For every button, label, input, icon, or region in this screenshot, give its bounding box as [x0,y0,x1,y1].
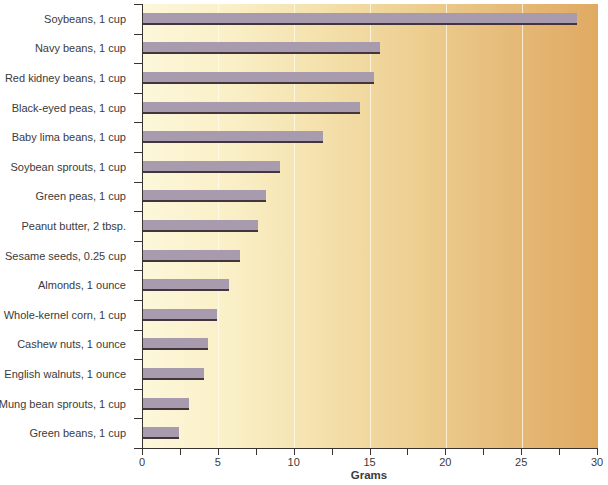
x-tick-label-15: 15 [363,456,375,468]
x-tick-label-20: 20 [439,456,451,468]
x-tick [218,449,219,455]
x-tick [180,449,181,455]
category-label: Soybean sprouts, 1 cup [0,152,134,182]
bar-english-walnuts [143,368,204,380]
y-tick [134,122,142,123]
y-tick [134,359,142,360]
bar-soybeans [143,13,577,25]
category-label: Peanut butter, 2 tbsp. [0,211,134,241]
bar-green-beans [143,427,179,439]
y-tick [134,389,142,390]
y-tick [134,34,142,35]
category-label: Cashew nuts, 1 ounce [0,330,134,360]
y-tick [134,330,142,331]
bar-green-peas [143,190,266,202]
y-tick [134,448,142,449]
plot-area [142,4,598,449]
category-label: Almonds, 1 ounce [0,270,134,300]
category-axis-labels: Soybeans, 1 cupNavy beans, 1 cupRed kidn… [0,4,134,448]
gridline-25 [522,4,523,448]
x-tick [559,449,560,455]
x-tick-label-25: 25 [515,456,527,468]
y-tick [134,4,142,5]
bar-whole-kernel-corn [143,309,217,321]
category-label: Green peas, 1 cup [0,182,134,212]
category-label: Mung bean sprouts, 1 cup [0,389,134,419]
y-tick [134,93,142,94]
bar-black-eyed-peas [143,102,360,114]
x-axis-title: Grams [351,469,387,481]
bar-mung-bean-sprouts [143,398,189,410]
y-tick [134,211,142,212]
bar-peanut-butter [143,220,258,232]
y-tick [134,152,142,153]
category-label: Baby lima beans, 1 cup [0,122,134,152]
x-tick [370,449,371,455]
x-tick [142,449,143,455]
category-label: Sesame seeds, 0.25 cup [0,241,134,271]
x-tick [256,449,257,455]
bar-baby-lima-beans [143,131,323,143]
y-tick [134,270,142,271]
y-tick [134,418,142,419]
x-tick [407,449,408,455]
bar-almonds [143,279,229,291]
bar-soybean-sprouts [143,161,280,173]
category-label: English walnuts, 1 ounce [0,359,134,389]
x-tick-label-30: 30 [591,456,603,468]
bar-sesame-seeds [143,250,240,262]
x-tick-label-5: 5 [215,456,221,468]
x-tick [294,449,295,455]
bar-navy-beans [143,42,380,54]
bar-red-kidney-beans [143,72,374,84]
bar-cashew-nuts [143,338,208,350]
protein-content-bar-chart: Soybeans, 1 cupNavy beans, 1 cupRed kidn… [0,0,608,485]
category-label: Navy beans, 1 cup [0,34,134,64]
gridline-15 [370,4,371,448]
y-tick [134,63,142,64]
x-tick-label-10: 10 [288,456,300,468]
category-label: Whole-kernel corn, 1 cup [0,300,134,330]
x-tick [521,449,522,455]
gridline-10 [294,4,295,448]
category-label: Green beans, 1 cup [0,418,134,448]
category-label: Soybeans, 1 cup [0,4,134,34]
category-label: Black-eyed peas, 1 cup [0,93,134,123]
category-label: Red kidney beans, 1 cup [0,63,134,93]
x-tick [597,449,598,455]
x-tick [445,449,446,455]
x-tick-label-0: 0 [139,456,145,468]
y-tick [134,300,142,301]
gridline-20 [446,4,447,448]
x-tick [332,449,333,455]
y-tick [134,241,142,242]
x-tick [483,449,484,455]
y-tick [134,182,142,183]
